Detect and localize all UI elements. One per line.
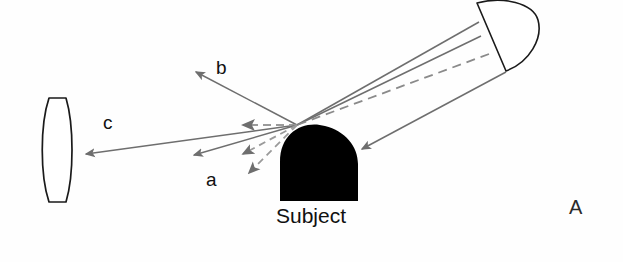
ray-b-reflected	[196, 72, 297, 125]
ray-label-c: c	[103, 113, 113, 132]
ray-source-to-subject-dashed	[297, 54, 489, 125]
light-source-reflector	[477, 0, 539, 71]
figure-panel: b c a Subject A	[0, 0, 623, 262]
ray-source-to-subject-mid	[297, 36, 481, 125]
subject-label: Subject	[276, 205, 346, 226]
panel-label: A	[569, 197, 582, 217]
lens	[42, 98, 72, 202]
subject	[280, 124, 358, 201]
ray-c-to-lens	[86, 125, 297, 154]
ray-label-b: b	[216, 58, 227, 77]
ray-source-to-subject-upper	[297, 22, 479, 125]
ray-label-a: a	[206, 170, 217, 189]
